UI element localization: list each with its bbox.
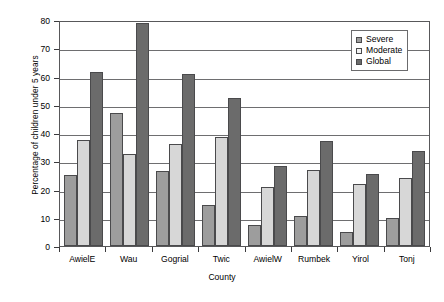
legend-swatch-icon [356, 59, 362, 65]
bar-global [274, 166, 287, 247]
bar-severe [110, 113, 123, 246]
x-axis-tick-label: AwielE [59, 254, 105, 264]
legend-item: Severe [356, 34, 402, 45]
x-axis-tick-label: Wau [105, 254, 151, 264]
bar-global [228, 98, 241, 246]
bar-severe [64, 175, 77, 246]
legend-label: Severe [366, 35, 393, 44]
y-axis-tick-label: 30 [20, 158, 50, 167]
bar-moderate [169, 144, 182, 246]
bar-group [245, 22, 291, 246]
x-axis-tick-label: AwielW [245, 254, 291, 264]
x-axis-tick-label: Tonj [384, 254, 430, 264]
bar-global [182, 74, 195, 246]
bar-moderate [307, 170, 320, 246]
y-axis-tick-label: 40 [20, 130, 50, 139]
y-axis-tick-label: 80 [20, 17, 50, 26]
bar-global [320, 141, 333, 246]
bar-group [152, 22, 198, 246]
y-axis-tick-label: 60 [20, 74, 50, 83]
bar-severe [340, 232, 353, 246]
legend-label: Moderate [366, 46, 402, 55]
x-axis-tick-mark [245, 247, 246, 252]
x-axis-tick-mark [291, 247, 292, 252]
bar-severe [156, 171, 169, 246]
bar-moderate [261, 187, 274, 246]
bar-global [90, 72, 103, 246]
bar-moderate [77, 140, 90, 246]
x-axis-tick-mark [337, 247, 338, 252]
bar-moderate [123, 154, 136, 246]
bar-severe [248, 225, 261, 246]
bar-severe [202, 205, 215, 246]
x-axis-tick-mark [152, 247, 153, 252]
legend-swatch-icon [356, 48, 362, 54]
x-axis-tick-mark [384, 247, 385, 252]
y-axis-tick-label: 0 [20, 243, 50, 252]
bar-moderate [353, 184, 366, 246]
x-axis-title: County [0, 272, 444, 282]
bar-group [291, 22, 337, 246]
bar-global [136, 23, 149, 246]
bar-global [412, 151, 425, 246]
x-axis-tick-label: Gogrial [152, 254, 198, 264]
bar-severe [386, 218, 399, 246]
bar-moderate [215, 137, 228, 246]
chart-legend: SevereModerateGlobal [351, 30, 408, 71]
legend-label: Global [366, 57, 391, 66]
bar-group [198, 22, 244, 246]
x-axis-tick-label: Twic [198, 254, 244, 264]
x-axis-tick-label: Rumbek [291, 254, 337, 264]
y-axis-tick-label: 50 [20, 102, 50, 111]
y-axis-tick-label: 20 [20, 187, 50, 196]
x-axis-tick-mark [430, 247, 431, 252]
x-axis-tick-label: Yirol [337, 254, 383, 264]
legend-swatch-icon [356, 37, 362, 43]
x-axis-tick-mark [59, 247, 60, 252]
y-axis-tick-label: 10 [20, 215, 50, 224]
bar-severe [294, 216, 307, 246]
bar-moderate [399, 178, 412, 246]
x-axis-tick-mark [198, 247, 199, 252]
x-axis-tick-mark [105, 247, 106, 252]
bar-group [106, 22, 152, 246]
x-axis-tick-labels: AwielEWauGogrialTwicAwielWRumbekYirolTon… [59, 254, 430, 264]
bar-global [366, 174, 379, 246]
bar-chart: Percentage of children under 5 years 010… [0, 0, 444, 302]
bar-group [60, 22, 106, 246]
legend-item: Global [356, 56, 402, 67]
y-axis-tick-label: 70 [20, 45, 50, 54]
legend-item: Moderate [356, 45, 402, 56]
